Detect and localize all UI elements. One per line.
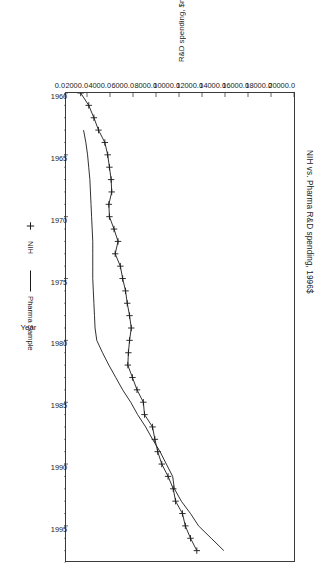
series-line-nih (81, 93, 197, 551)
legend-entry-nih: NIH (26, 215, 35, 254)
data-point-marker (124, 300, 130, 306)
data-point-marker (140, 399, 146, 405)
data-point-marker (126, 312, 132, 318)
data-point-marker (179, 510, 185, 516)
data-point-marker (105, 152, 111, 158)
data-point-marker (109, 189, 115, 195)
data-point-marker (149, 424, 155, 430)
data-point-marker (95, 127, 101, 133)
legend-label-pharma-sample: Pharma Sample (26, 296, 35, 350)
chart-title: NIH vs. Pharma R&D spending, 1996$ (305, 150, 314, 450)
y-axis-title: R&D spending, $m, 1996 $m (177, 0, 186, 82)
chart-legend: NIH Pharma Sample (26, 215, 35, 351)
plot-area (65, 92, 295, 562)
chart-rotation-wrapper: NIH vs. Pharma R&D spending, 1996$ 0.020… (0, 0, 320, 587)
data-point-marker (108, 176, 114, 182)
data-point-marker (115, 238, 121, 244)
data-point-marker (182, 523, 188, 529)
data-point-marker (91, 115, 97, 121)
data-point-marker (194, 547, 200, 553)
chart-figure: NIH vs. Pharma R&D spending, 1996$ 0.020… (0, 0, 320, 587)
data-point-marker (106, 201, 112, 207)
x-axis-tick-label: 1980 (49, 339, 69, 348)
plus-marker-icon (26, 215, 35, 237)
data-point-marker (119, 275, 125, 281)
legend-entry-pharma-sample: Pharma Sample (26, 270, 35, 350)
data-point-marker (112, 251, 118, 257)
legend-label-nih: NIH (26, 241, 35, 254)
x-axis-tick-label: 1960 (49, 92, 69, 101)
x-axis-tick-label: 1975 (49, 278, 69, 287)
data-point-marker (126, 337, 132, 343)
data-point-marker (159, 461, 165, 467)
data-point-marker (102, 139, 108, 145)
data-point-marker (106, 164, 112, 170)
data-point-marker (86, 102, 92, 108)
data-point-marker (125, 362, 131, 368)
data-point-marker (122, 288, 128, 294)
data-point-marker (141, 411, 147, 417)
x-axis-tick-label: 1990 (49, 463, 69, 472)
x-axis-tick-label: 1970 (49, 216, 69, 225)
data-point-marker (134, 387, 140, 393)
data-point-marker (106, 213, 112, 219)
plot-svg (64, 93, 294, 563)
data-point-marker (128, 325, 134, 331)
y-axis-tick-label: 20000.0 (261, 80, 295, 92)
x-axis-tick-label: 1965 (49, 154, 69, 163)
data-point-marker (117, 263, 123, 269)
x-axis-tick-label: 1995 (49, 525, 69, 534)
x-axis-tick-label: 1985 (49, 401, 69, 410)
data-point-marker (187, 535, 193, 541)
line-swatch-icon (26, 270, 35, 292)
data-point-marker (172, 498, 178, 504)
data-point-marker (125, 350, 131, 356)
data-point-marker (129, 374, 135, 380)
data-point-marker (165, 473, 171, 479)
data-point-marker (111, 226, 117, 232)
series-line-pharma-sample (84, 130, 224, 551)
